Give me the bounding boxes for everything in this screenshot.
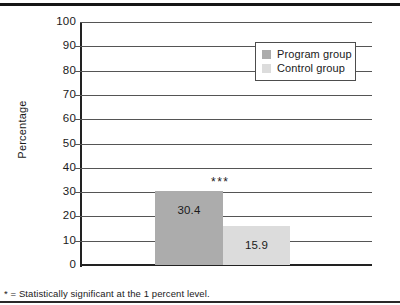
chart-legend: Program group Control group [255,42,356,81]
y-tick-label: 20 [42,210,76,222]
y-tick-label: 60 [42,113,76,125]
legend-item-program-group[interactable]: Program group [262,47,349,61]
bottom-divider-rule [0,301,400,303]
y-tick-label: 10 [42,235,76,247]
y-tick-label: 70 [42,89,76,101]
gridline [80,144,372,145]
legend-label-program-group: Program group [277,49,352,60]
gridline [80,22,372,23]
chart-figure: Percentage 1009080706050403020100 30.415… [0,6,400,301]
gridline [80,192,372,193]
bar-value-label-program-group: 30.4 [155,205,223,217]
bar-control-group[interactable]: 15.9 [223,226,290,265]
y-tick-label: 100 [42,16,76,28]
bar-program-group[interactable]: 30.4 [155,191,223,265]
y-tick-label: 90 [42,40,76,52]
y-tick-label: 80 [42,65,76,77]
y-axis-tick-labels: 1009080706050403020100 [36,6,76,301]
legend-swatch-control-group [262,64,271,73]
y-axis-title: Percentage [17,85,28,175]
legend-label-control-group: Control group [277,63,345,74]
significance-marker: *** [211,176,230,188]
y-tick-label: 50 [42,138,76,150]
gridline [80,168,372,169]
bar-value-label-control-group: 15.9 [223,240,290,252]
legend-item-control-group[interactable]: Control group [262,61,349,75]
gridline [80,95,372,96]
legend-swatch-program-group [262,50,271,59]
y-tick-label: 30 [42,186,76,198]
y-tick-label: 40 [42,162,76,174]
y-tick-label: 0 [42,259,76,271]
gridline [80,216,372,217]
gridline [80,119,372,120]
chart-footnote: * = Statistically significant at the 1 p… [4,289,210,299]
